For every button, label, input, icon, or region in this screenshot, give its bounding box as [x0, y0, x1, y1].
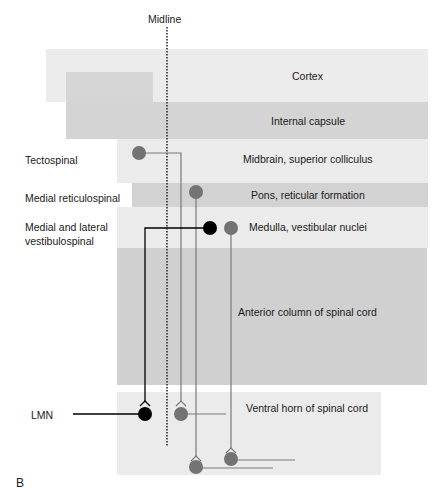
tectospinal-pathway [139, 153, 226, 414]
lmn-neuron-icon [138, 407, 152, 421]
pathway-diagram [0, 0, 441, 499]
reticulospinal-neuron-icon [189, 185, 203, 199]
tectospinal-target-neuron-icon [174, 407, 188, 421]
reticulospinal-target-neuron-icon [189, 460, 203, 474]
medial-vestibulospinal-pathway [226, 228, 295, 460]
vestibular-black-neuron-icon [203, 221, 217, 235]
lateral-vestibulospinal-pathway [73, 228, 210, 414]
vestibular-target-neuron-icon [224, 452, 238, 466]
tectospinal-neuron-icon [132, 146, 146, 160]
vestibular-grey-neuron-icon [224, 221, 238, 235]
